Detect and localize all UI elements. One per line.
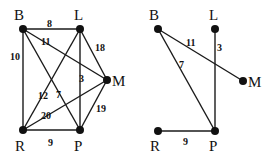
node-L xyxy=(76,25,84,33)
edge-weight-R-P: 9 xyxy=(183,136,188,147)
graph-right: 11739BLMRP xyxy=(149,7,261,154)
edge-weight-B-L: 8 xyxy=(47,18,52,29)
edge-weight-L-R: 12 xyxy=(38,90,48,101)
node-M xyxy=(103,76,111,84)
node-B xyxy=(154,25,162,33)
edge-weight-B-R: 10 xyxy=(10,51,20,62)
edge-weight-L-P: 3 xyxy=(217,42,222,53)
edge-weight-B-P: 7 xyxy=(56,89,61,100)
node-label-B: B xyxy=(149,7,159,23)
node-label-R: R xyxy=(15,138,25,154)
node-M xyxy=(239,77,247,85)
edge-weight-L-P: 3 xyxy=(79,73,84,84)
edge-weight-B-M: 11 xyxy=(186,37,195,48)
edge-weight-L-M: 18 xyxy=(95,42,105,53)
edge-weight-M-R: 20 xyxy=(41,110,51,121)
node-label-L: L xyxy=(74,7,83,23)
edge-B-M xyxy=(158,29,243,81)
node-label-R: R xyxy=(150,138,160,154)
edge-weight-B-M: 11 xyxy=(41,36,50,47)
node-label-P: P xyxy=(209,138,217,154)
edge-M-R xyxy=(23,80,107,130)
node-label-M: M xyxy=(112,73,125,89)
node-label-M: M xyxy=(248,74,261,90)
edge-weight-M-P: 19 xyxy=(96,103,106,114)
node-label-B: B xyxy=(14,7,24,23)
edge-weight-R-P: 9 xyxy=(48,137,53,148)
node-label-L: L xyxy=(209,7,218,23)
node-P xyxy=(211,127,219,135)
node-B xyxy=(19,25,27,33)
graph-diagram: 8111071831220199BLMRP11739BLMRP xyxy=(0,0,273,156)
node-P xyxy=(76,126,84,134)
node-L xyxy=(211,25,219,33)
graph-left: 8111071831220199BLMRP xyxy=(10,7,125,154)
node-label-P: P xyxy=(74,138,82,154)
edge-weight-B-P: 7 xyxy=(179,59,184,70)
node-R xyxy=(19,126,27,134)
node-R xyxy=(154,127,162,135)
